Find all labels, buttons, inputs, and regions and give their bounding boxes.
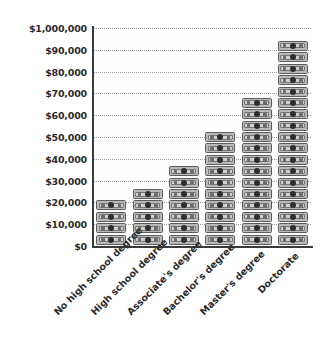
banknote-icon (169, 166, 199, 176)
banknote-portrait (181, 237, 187, 243)
banknote-denomination-left (101, 204, 105, 208)
banknote-portrait (290, 157, 296, 163)
banknote-icon (278, 189, 308, 199)
banknote-denomination-left (247, 170, 251, 174)
banknote-icon (242, 143, 272, 153)
x-axis-tick-label: Bachelor's degree (161, 250, 228, 317)
banknote-icon (278, 132, 308, 142)
banknote-denomination-left (247, 181, 251, 185)
banknote-denomination-right (263, 192, 267, 196)
bar (278, 41, 308, 246)
banknote-denomination-left (174, 181, 178, 185)
x-axis-tick-label: Associate's degree (124, 250, 191, 317)
banknote-denomination-right (263, 158, 267, 162)
banknote-icon (96, 200, 126, 210)
banknote-denomination-left (174, 170, 178, 174)
banknote-denomination-right (299, 67, 303, 71)
banknote-portrait (290, 89, 296, 95)
y-axis-tick-label: $1,000,000 (3, 23, 87, 34)
y-axis-tick-label: $10,000 (3, 219, 87, 230)
banknote-denomination-right (299, 101, 303, 105)
banknote-icon (205, 223, 235, 233)
y-axis-tick-label: $70,000 (3, 88, 87, 99)
banknote-denomination-right (227, 192, 231, 196)
banknote-icon (242, 178, 272, 188)
banknote-portrait (108, 237, 114, 243)
y-axis-tick-label: $50,000 (3, 132, 87, 143)
banknote-icon (278, 166, 308, 176)
banknote-portrait (181, 191, 187, 197)
banknote-denomination-right (299, 124, 303, 128)
banknote-portrait (145, 225, 151, 231)
y-axis-tick-label: $40,000 (3, 153, 87, 164)
banknote-denomination-right (263, 215, 267, 219)
banknote-denomination-right (227, 181, 231, 185)
banknote-icon (278, 52, 308, 62)
banknote-denomination-left (210, 226, 214, 230)
banknote-denomination-left (247, 113, 251, 117)
banknote-denomination-left (210, 147, 214, 151)
banknote-denomination-left (283, 56, 287, 60)
banknote-denomination-right (299, 113, 303, 117)
y-axis-tick-label: $30,000 (3, 175, 87, 186)
plot-area (93, 28, 311, 246)
banknote-portrait (290, 66, 296, 72)
banknote-icon (205, 200, 235, 210)
banknote-denomination-right (299, 170, 303, 174)
banknote-denomination-right (299, 44, 303, 48)
banknote-icon (205, 143, 235, 153)
banknote-portrait (290, 123, 296, 129)
banknote-denomination-left (283, 226, 287, 230)
banknote-portrait (254, 237, 260, 243)
banknote-denomination-right (263, 181, 267, 185)
banknote-portrait (181, 214, 187, 220)
banknote-portrait (217, 237, 223, 243)
banknote-icon (169, 178, 199, 188)
banknote-denomination-right (263, 226, 267, 230)
banknote-icon (133, 200, 163, 210)
banknote-denomination-left (210, 181, 214, 185)
banknote-portrait (254, 202, 260, 208)
y-axis-line (92, 26, 94, 248)
y-axis-tick-label: $60,000 (3, 110, 87, 121)
banknote-denomination-right (299, 204, 303, 208)
banknote-denomination-left (283, 78, 287, 82)
banknote-denomination-right (299, 135, 303, 139)
x-axis-tick-label: Master's degree (197, 250, 264, 317)
banknote-icon (242, 200, 272, 210)
x-axis-tick-label: No high school degree (52, 250, 119, 317)
banknote-icon (278, 155, 308, 165)
banknote-denomination-left (174, 204, 178, 208)
banknote-icon (278, 121, 308, 131)
banknote-denomination-left (283, 215, 287, 219)
banknote-denomination-right (299, 147, 303, 151)
banknote-portrait (290, 180, 296, 186)
banknote-denomination-right (118, 226, 122, 230)
banknote-icon (169, 189, 199, 199)
banknote-denomination-left (247, 226, 251, 230)
banknote-portrait (290, 191, 296, 197)
banknote-denomination-left (283, 67, 287, 71)
banknote-icon (242, 189, 272, 199)
banknote-icon (205, 189, 235, 199)
banknote-denomination-left (247, 238, 251, 242)
banknote-denomination-right (190, 204, 194, 208)
banknote-denomination-left (138, 192, 142, 196)
banknote-icon (96, 223, 126, 233)
banknote-denomination-right (299, 56, 303, 60)
banknote-denomination-right (227, 147, 231, 151)
banknote-denomination-right (263, 147, 267, 151)
banknote-denomination-right (299, 158, 303, 162)
banknote-denomination-right (227, 135, 231, 139)
banknote-denomination-right (299, 181, 303, 185)
y-axis-tick-label: $90,000 (3, 44, 87, 55)
banknote-denomination-left (210, 158, 214, 162)
banknote-portrait (254, 100, 260, 106)
banknote-denomination-left (247, 101, 251, 105)
banknote-denomination-left (283, 101, 287, 105)
banknote-denomination-left (210, 238, 214, 242)
banknote-portrait (108, 214, 114, 220)
banknote-denomination-left (283, 238, 287, 242)
banknote-icon (278, 98, 308, 108)
banknote-denomination-right (227, 158, 231, 162)
